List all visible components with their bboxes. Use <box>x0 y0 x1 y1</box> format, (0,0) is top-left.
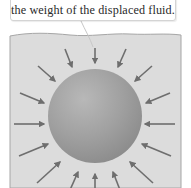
callout-text: the weight of the displaced fluid. <box>11 3 175 18</box>
buoyancy-diagram <box>0 0 191 188</box>
submerged-sphere <box>48 69 142 163</box>
callout-box: the weight of the displaced fluid. <box>10 0 176 21</box>
